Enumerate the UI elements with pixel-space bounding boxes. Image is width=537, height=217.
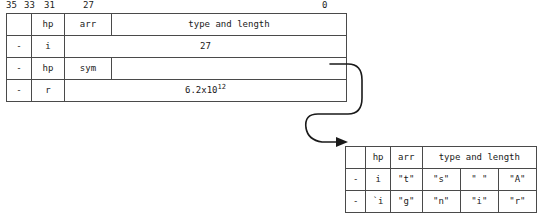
table-row: - i 27 <box>7 36 347 58</box>
cell-flag-h <box>346 147 366 169</box>
bit-label-0: 0 <box>322 0 327 11</box>
cell-arr-h: arr <box>390 147 422 169</box>
cell-type-and-length: type and length <box>422 147 536 169</box>
table-row: - r 6.2x1012 <box>7 80 347 102</box>
bit-label-31: 31 <box>44 0 55 11</box>
bit-label-35: 35 <box>6 0 17 11</box>
word-table-primary: hp arr type and length - i 27 - hp sym -… <box>6 13 347 102</box>
cell-char-r2c0: "g" <box>390 191 422 213</box>
cell-hp-r1: i <box>366 169 391 191</box>
cell-tag-arr: arr <box>65 14 112 36</box>
cell-hp-r2: `i <box>366 191 391 213</box>
real-mantissa: 6.2x10 <box>185 85 218 95</box>
cell-char-r1c1: "s" <box>422 169 460 191</box>
bit-label-27: 27 <box>83 0 94 11</box>
cell-char-r2c1: "n" <box>422 191 460 213</box>
table-row: - hp sym <box>7 58 347 80</box>
cell-tag-sym: sym <box>65 58 112 80</box>
cell-hp-1: i <box>32 36 65 58</box>
real-exponent: 12 <box>218 83 226 91</box>
cell-char-r1c3: "A" <box>498 169 536 191</box>
cell-hp-0: hp <box>32 14 65 36</box>
cell-flag-r2: - <box>346 191 366 213</box>
cell-flag-1: - <box>7 36 32 58</box>
cell-body-type-and-length: type and length <box>112 14 347 36</box>
cell-char-r1c2: " " <box>460 169 498 191</box>
cell-flag-2: - <box>7 58 32 80</box>
table-row: - `i "g" "n" "i" "r" <box>346 191 537 213</box>
cell-flag-r1: - <box>346 169 366 191</box>
table-row: - i "t" "s" " " "A" <box>346 169 537 191</box>
cell-char-r2c3: "r" <box>498 191 536 213</box>
cell-flag-3: - <box>7 80 32 102</box>
cell-hp-h: hp <box>366 147 391 169</box>
word-table-string: hp arr type and length - i "t" "s" " " "… <box>345 146 537 213</box>
cell-hp-2: hp <box>32 58 65 80</box>
table-row: hp arr type and length <box>7 14 347 36</box>
word-format-diagram: 35 33 31 27 0 hp arr type and length - i… <box>0 0 537 217</box>
cell-flag-0 <box>7 14 32 36</box>
cell-char-r2c2: "i" <box>460 191 498 213</box>
cell-char-r1c0: "t" <box>390 169 422 191</box>
cell-hp-3: r <box>32 80 65 102</box>
bit-label-33: 33 <box>24 0 35 11</box>
table-row: hp arr type and length <box>346 147 537 169</box>
